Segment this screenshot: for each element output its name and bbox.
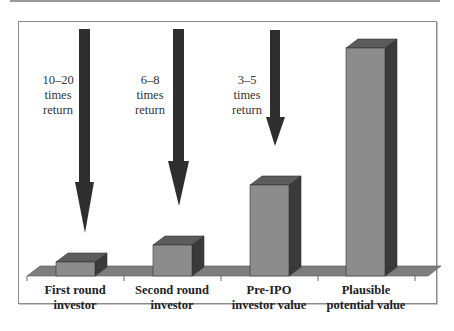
category-label-line: First round	[20, 283, 130, 298]
annotation-first-round: 10–20 times return	[33, 73, 83, 118]
annotation-line: 3–5	[222, 73, 272, 88]
annotation-pre-ipo: 3–5 times return	[222, 73, 272, 118]
annotation-line: 10–20	[33, 73, 83, 88]
bar-second-round	[153, 236, 204, 276]
category-label-first-round: First round investor	[20, 283, 130, 313]
category-label-line: Pre-IPO	[214, 283, 324, 298]
category-label-line: potential value	[311, 298, 421, 313]
bar-plausible-potential	[346, 39, 397, 276]
chart-plot	[0, 0, 454, 331]
axis-ticks	[27, 276, 415, 281]
category-label-pre-ipo: Pre-IPO investor value	[214, 283, 324, 313]
category-label-plausible-potential: Plausible potential value	[311, 283, 421, 313]
category-label-line: investor	[20, 298, 130, 313]
annotation-line: return	[125, 103, 175, 118]
annotation-line: times	[125, 88, 175, 103]
bar-first-round	[56, 253, 107, 276]
category-label-line: Second round	[117, 283, 227, 298]
category-label-line: investor value	[214, 298, 324, 313]
annotation-line: return	[33, 103, 83, 118]
bar-pre-ipo	[250, 176, 301, 276]
annotation-line: 6–8	[125, 73, 175, 88]
arrow-icon-first-round	[75, 29, 94, 233]
annotation-second-round: 6–8 times return	[125, 73, 175, 118]
category-label-line: investor	[117, 298, 227, 313]
category-label-line: Plausible	[311, 283, 421, 298]
annotation-line: times	[33, 88, 83, 103]
category-label-second-round: Second round investor	[117, 283, 227, 313]
annotation-line: times	[222, 88, 272, 103]
annotation-line: return	[222, 103, 272, 118]
